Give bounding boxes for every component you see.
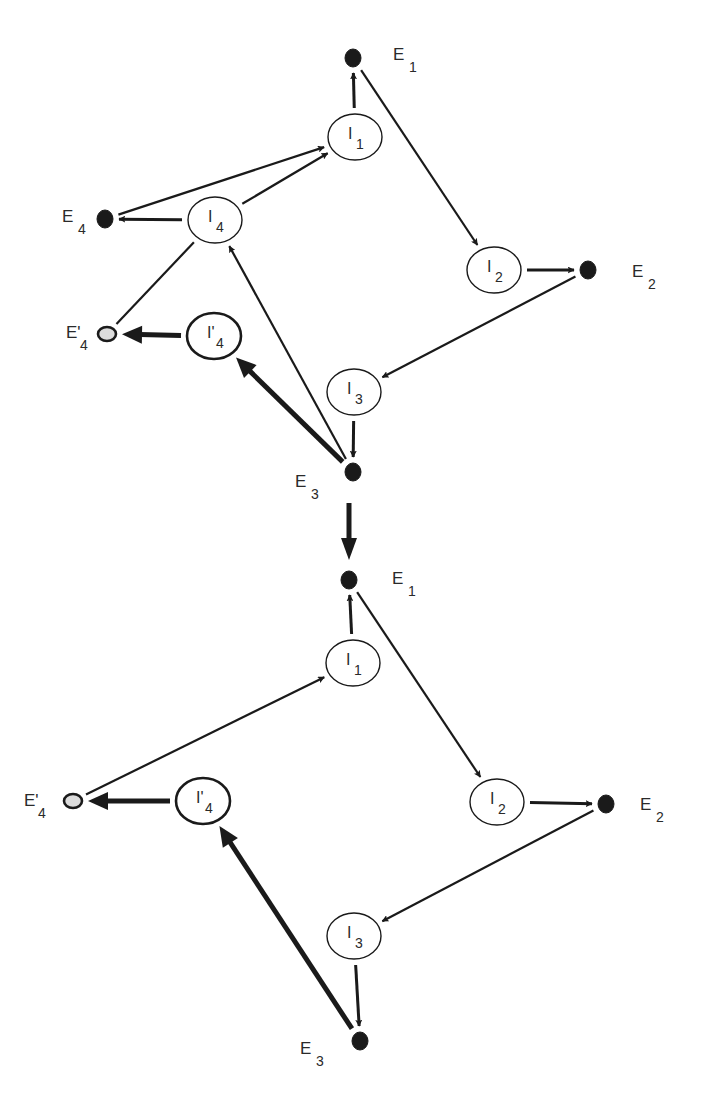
- transition-arrow: [341, 503, 357, 560]
- edge-e1-to-i2: [361, 70, 477, 245]
- inhibitory-circle-icon: [327, 913, 381, 959]
- node-label: E': [66, 323, 81, 342]
- excitatory-dot-icon: [345, 49, 361, 67]
- node-e3: E3: [295, 463, 361, 502]
- excitatory-dot-icon: [598, 795, 614, 813]
- node-subscript: 3: [355, 391, 363, 407]
- edge-i1-to-e1: [353, 73, 354, 108]
- node-e1: E1: [345, 45, 417, 75]
- node-label: E: [640, 795, 651, 814]
- node-subscript: 1: [408, 583, 416, 599]
- arrowhead-icon: [122, 326, 142, 344]
- inhibitory-circle-icon: [326, 640, 380, 686]
- inhibitory-circle-icon: [188, 197, 242, 243]
- node-label: I: [346, 651, 350, 668]
- node-label: I': [196, 789, 204, 806]
- top-panel: E1I1I2E2I3E3I4E4I'4E'4: [62, 45, 656, 502]
- edge-i1-to-e1: [350, 595, 352, 634]
- node-label: E: [300, 1039, 311, 1058]
- node-subscript: 1: [354, 662, 362, 678]
- excitatory-dot-icon: [341, 571, 357, 589]
- node-subscript: 4: [80, 337, 88, 353]
- node-e1: E1: [341, 569, 416, 599]
- node-subscript: 2: [498, 801, 506, 817]
- node-e-prime4: E'4: [66, 323, 116, 353]
- node-i2: I2: [470, 779, 524, 825]
- node-i1: I1: [326, 640, 380, 686]
- node-subscript: 4: [205, 800, 213, 816]
- node-subscript: 4: [216, 219, 224, 235]
- node-e3: E3: [300, 1032, 368, 1069]
- top-nodes: E1I1I2E2I3E3I4E4I'4E'4: [62, 45, 656, 502]
- node-i4: I4: [188, 197, 242, 243]
- node-label: I: [487, 258, 491, 275]
- node-i2: I2: [467, 247, 521, 293]
- node-label: E: [295, 472, 306, 491]
- edge-i2-to-e2: [530, 803, 592, 804]
- arrowhead-icon: [88, 792, 108, 810]
- node-e2: E2: [580, 261, 656, 292]
- node-subscript: 2: [656, 809, 664, 825]
- node-subscript: 4: [38, 805, 46, 821]
- node-label: E: [392, 569, 403, 588]
- excitatory-dot-icon: [352, 1032, 368, 1050]
- node-label: E: [62, 207, 73, 226]
- edge-e3-to-i4: [229, 246, 346, 459]
- node-label: I: [348, 125, 352, 142]
- edge-e-prime4-to-i4: [116, 242, 193, 324]
- node-subscript: 4: [216, 335, 224, 351]
- node-i-prime4: I'4: [176, 778, 230, 824]
- edge-e2-to-i3: [382, 811, 593, 922]
- node-subscript: 3: [311, 486, 319, 502]
- excitatory-dot-icon: [345, 463, 361, 481]
- inhibitory-circle-icon: [470, 779, 524, 825]
- node-i1: I1: [328, 114, 382, 160]
- node-subscript: 2: [495, 269, 503, 285]
- node-subscript: 3: [316, 1053, 324, 1069]
- node-label: I': [207, 324, 215, 341]
- edge-e1-to-i2: [357, 592, 480, 777]
- node-subscript: 1: [409, 59, 417, 75]
- network-diagram: E1I1I2E2I3E3I4E4I'4E'4 E1I1I2E2I3E3I'4E'…: [0, 0, 701, 1106]
- node-e4: E4: [62, 207, 113, 237]
- inhibitory-circle-icon: [467, 247, 521, 293]
- node-subscript: 3: [355, 935, 363, 951]
- node-label: E: [393, 45, 404, 64]
- edge-e2-to-i3: [382, 277, 575, 378]
- node-i3: I3: [327, 913, 381, 959]
- inhibitory-circle-icon: [328, 114, 382, 160]
- edge-i4-to-e4: [119, 219, 182, 220]
- node-i-prime4: I'4: [187, 313, 241, 359]
- node-label: I: [490, 790, 494, 807]
- open-dot-icon: [98, 327, 116, 341]
- node-i3: I3: [327, 369, 381, 415]
- excitatory-dot-icon: [580, 261, 596, 279]
- open-dot-icon: [64, 794, 82, 808]
- inhibitory-circle-icon: [327, 369, 381, 415]
- bottom-panel: E1I1I2E2I3E3I'4E'4: [24, 569, 664, 1069]
- edge-i-prime4-to-e-prime4: [140, 335, 181, 336]
- node-label: I: [208, 208, 212, 225]
- node-label: E: [632, 262, 643, 281]
- node-subscript: 4: [78, 221, 86, 237]
- node-label: E': [24, 791, 39, 810]
- node-subscript: 1: [356, 136, 364, 152]
- node-subscript: 2: [648, 276, 656, 292]
- bottom-nodes: E1I1I2E2I3E3I'4E'4: [24, 569, 664, 1069]
- node-label: I: [347, 380, 351, 397]
- excitatory-dot-icon: [97, 210, 113, 228]
- node-e-prime4: E'4: [24, 791, 82, 821]
- edge-i3-to-e3: [356, 965, 359, 1026]
- node-label: I: [347, 924, 351, 941]
- node-e2: E2: [598, 795, 664, 825]
- arrow-down-icon: [341, 538, 357, 560]
